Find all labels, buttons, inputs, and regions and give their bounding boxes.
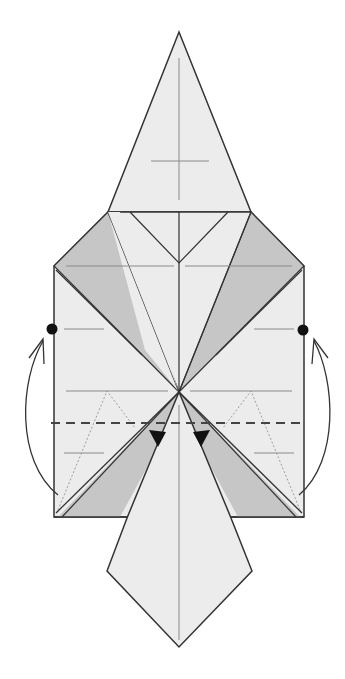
origami-diagram: Fold the bottom edge up so the bottom co… [0,0,345,679]
reference-dot-right [298,325,309,336]
reference-dot-left [47,324,58,335]
top-point-flap [108,32,251,212]
diagram-canvas [0,0,345,679]
fold-up-arrow-left [26,339,58,495]
